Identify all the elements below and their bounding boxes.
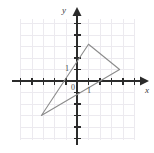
- origin-label: 0: [71, 83, 75, 92]
- y-unit-label: 1: [65, 64, 69, 73]
- x-unit-label: 1: [87, 86, 91, 95]
- graph-figure: y x 1 0 1: [0, 0, 154, 153]
- triangle-shape: [41, 44, 119, 115]
- y-axis: [73, 7, 82, 145]
- y-axis-arrow: [73, 7, 82, 16]
- x-axis-label: x: [144, 85, 149, 95]
- y-axis-label: y: [61, 5, 66, 15]
- coordinate-plane-svg: y x 1 0 1: [0, 0, 154, 153]
